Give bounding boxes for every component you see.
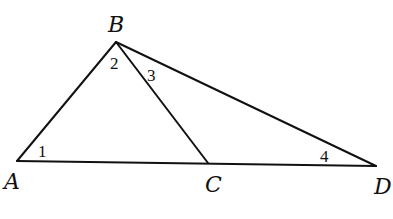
geometry-diagram: B A C D 1 2 3 4 <box>0 0 393 219</box>
angle-label-4: 4 <box>320 147 329 166</box>
segment-ab <box>17 42 116 161</box>
point-label-a: A <box>2 169 20 194</box>
point-label-b: B <box>107 12 124 37</box>
segment-bd <box>116 42 376 166</box>
segment-bc <box>116 42 208 163</box>
angle-label-1: 1 <box>38 142 47 161</box>
diagram-svg: B A C D 1 2 3 4 <box>0 0 393 219</box>
angle-label-3: 3 <box>147 66 156 85</box>
angle-label-2: 2 <box>110 54 119 73</box>
point-label-d: D <box>373 174 392 199</box>
point-label-c: C <box>205 172 222 197</box>
